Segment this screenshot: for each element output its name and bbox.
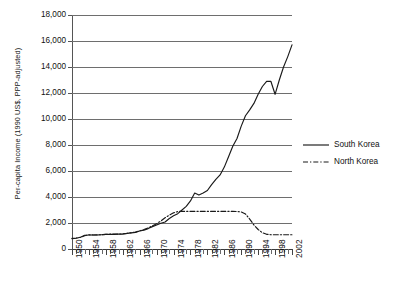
x-tick-mark <box>275 249 276 255</box>
x-tick-mark <box>135 249 136 254</box>
x-tick-label: 1982 <box>211 239 220 258</box>
x-tick-label: 1990 <box>245 239 254 258</box>
x-tick-label: 1958 <box>109 239 118 258</box>
y-tick-label: 0 <box>2 244 66 253</box>
x-tick-mark <box>102 249 103 254</box>
series-line-north-korea <box>72 211 292 238</box>
y-tick-label: 12,000 <box>2 88 66 97</box>
x-tick-label: 1954 <box>92 239 101 258</box>
x-tick-mark <box>186 249 187 254</box>
x-tick-label: 2002 <box>295 239 304 258</box>
y-tick-label: 2,000 <box>2 218 66 227</box>
legend-item-north-korea[interactable]: North Korea <box>303 153 380 170</box>
x-tick-mark <box>106 249 107 255</box>
chart-legend: South KoreaNorth Korea <box>303 136 380 170</box>
y-tick-label: 16,000 <box>2 36 66 45</box>
y-tick-label: 8,000 <box>2 140 66 149</box>
y-tick-label: 10,000 <box>2 114 66 123</box>
x-tick-mark <box>140 249 141 255</box>
legend-swatch-solid-icon <box>303 141 329 149</box>
x-tick-label: 1986 <box>228 239 237 258</box>
legend-item-south-korea[interactable]: South Korea <box>303 136 380 153</box>
x-tick-label: 1950 <box>75 239 84 258</box>
chart-container: Per-capita Income (1990 US$, PPP-adjuste… <box>0 0 396 299</box>
x-tick-mark <box>258 249 259 255</box>
x-tick-mark <box>152 249 153 254</box>
series-lines <box>72 15 292 249</box>
x-tick-mark <box>254 249 255 254</box>
x-tick-label: 1994 <box>262 239 271 258</box>
legend-swatch-dash-dot-icon <box>303 158 329 166</box>
y-tick-label: 6,000 <box>2 166 66 175</box>
x-tick-mark <box>119 249 120 254</box>
y-tick-label: 18,000 <box>2 10 66 19</box>
x-tick-mark <box>72 249 73 255</box>
x-tick-label: 1966 <box>143 239 152 258</box>
x-tick-label: 1998 <box>278 239 287 258</box>
x-tick-mark <box>89 249 90 255</box>
x-tick-label: 1974 <box>177 239 186 258</box>
x-tick-mark <box>169 249 170 254</box>
x-tick-label: 1970 <box>160 239 169 258</box>
x-tick-mark <box>123 249 124 255</box>
x-tick-mark <box>220 249 221 254</box>
y-tick-label: 4,000 <box>2 192 66 201</box>
x-tick-label: 1978 <box>194 239 203 258</box>
x-tick-mark <box>292 249 293 255</box>
series-line-south-korea <box>72 45 292 239</box>
plot-area <box>72 15 292 249</box>
y-tick-label: 14,000 <box>2 62 66 71</box>
x-tick-mark <box>85 249 86 254</box>
x-tick-mark <box>288 249 289 254</box>
x-tick-mark <box>237 249 238 254</box>
x-tick-label: 1962 <box>126 239 135 258</box>
x-tick-mark <box>157 249 158 255</box>
x-tick-mark <box>241 249 242 255</box>
x-tick-mark <box>174 249 175 255</box>
x-tick-mark <box>224 249 225 255</box>
legend-label: North Korea <box>334 157 378 166</box>
x-tick-mark <box>203 249 204 254</box>
legend-label: South Korea <box>334 140 380 149</box>
x-tick-mark <box>207 249 208 255</box>
x-tick-mark <box>190 249 191 255</box>
